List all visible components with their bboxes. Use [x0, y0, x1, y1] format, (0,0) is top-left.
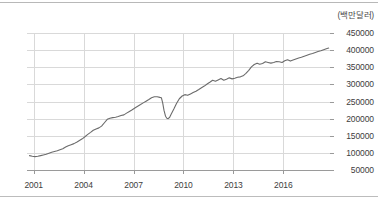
y-axis-tick-label: 300000 [346, 79, 374, 89]
y-axis-tick-label: 400000 [346, 45, 374, 55]
y-axis-tick-label: 50000 [351, 165, 374, 175]
y-axis-tick-marks [330, 34, 334, 171]
y-axis-tick-label: 150000 [346, 131, 374, 141]
x-axis-tick-label: 2010 [174, 180, 193, 190]
y-axis-tick-label: 450000 [346, 28, 374, 38]
chart-figure: (백만달러) 450000400000350000300000250000200… [0, 0, 378, 204]
x-axis-tick-label: 2007 [124, 180, 143, 190]
x-axis-tick-label: 2016 [274, 180, 293, 190]
vertical-gridlines [35, 33, 284, 170]
y-axis-tick-label: 100000 [346, 148, 374, 158]
y-axis-tick-label: 250000 [346, 97, 374, 107]
y-axis-tick-label: 350000 [346, 62, 374, 72]
horizontal-gridlines [27, 34, 330, 171]
line-chart-plot [0, 0, 378, 204]
x-axis-tick-label: 2004 [74, 180, 93, 190]
x-axis-tick-label: 2001 [24, 180, 43, 190]
x-axis-tick-label: 2013 [224, 180, 243, 190]
y-axis-tick-label: 200000 [346, 114, 374, 124]
